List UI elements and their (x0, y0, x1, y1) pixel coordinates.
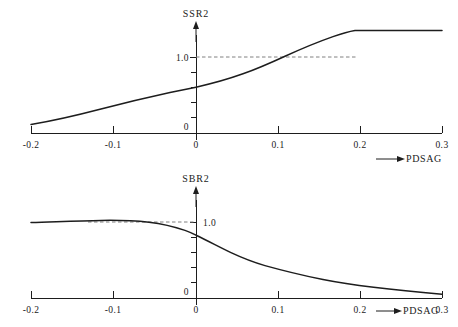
x-tick-label-bottom-4: 0.2 (353, 305, 366, 315)
x-tick-label-top-3: 0.1 (271, 140, 284, 150)
x-tick-label-top-4: 0.2 (353, 140, 366, 150)
y-axis-ticks-bottom (190, 222, 196, 282)
sbr2-plot-svg: 1.0 0 SBR2 -0.2 -0.1 0 0.1 0.2 0.3 PDSAG (0, 158, 458, 327)
x-tick-label-top-1: -0.1 (105, 140, 122, 150)
ssr2-plot-svg: 1.0 0 SSR2 -0.2 -0.1 0 0.1 0.2 0.3 PDSAG (0, 0, 458, 165)
series-curve-sbr2 (31, 220, 442, 294)
y-tick-label-zero-top: 0 (184, 122, 189, 132)
x-axis-label-bottom: PDSAG (403, 305, 439, 316)
x-tick-label-top-0: -0.2 (23, 140, 40, 150)
y-tick-label-one-bottom: 1.0 (203, 218, 216, 228)
two-panel-line-chart-figure: 1.0 0 SSR2 -0.2 -0.1 0 0.1 0.2 0.3 PDSAG (0, 0, 458, 327)
series-label-ssr2: SSR2 (183, 8, 209, 19)
x-tick-label-bottom-1: -0.1 (105, 305, 122, 315)
x-tick-label-bottom-0: -0.2 (23, 305, 40, 315)
x-axis-ticks-top (31, 126, 442, 133)
y-axis-arrow-head-bottom (193, 186, 199, 194)
x-axis-name-group-bottom: PDSAG (376, 305, 439, 316)
x-tick-label-bottom-2: 0 (193, 305, 198, 315)
y-axis-arrow-head-top (193, 21, 199, 29)
x-tick-label-top-5: 0.3 (435, 140, 448, 150)
series-label-sbr2: SBR2 (182, 173, 210, 184)
x-tick-label-bottom-3: 0.1 (271, 305, 284, 315)
series-curve-ssr2 (31, 31, 442, 125)
y-tick-label-zero-bottom: 0 (184, 287, 189, 297)
x-tick-label-top-2: 0 (193, 140, 198, 150)
x-axis-arrow-head-bottom (394, 308, 402, 314)
chart-panel-ssr2: 1.0 0 SSR2 -0.2 -0.1 0 0.1 0.2 0.3 PDSAG (0, 0, 458, 165)
x-axis-ticks-bottom (31, 291, 442, 298)
chart-panel-sbr2: 1.0 0 SBR2 -0.2 -0.1 0 0.1 0.2 0.3 PDSAG (0, 158, 458, 327)
y-tick-label-one-top: 1.0 (176, 53, 189, 63)
